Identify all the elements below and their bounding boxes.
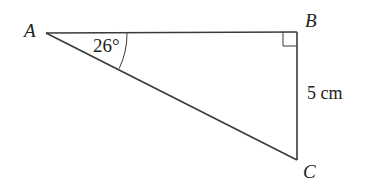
right-angle-marker	[283, 32, 297, 46]
angle-arc-a	[119, 33, 127, 69]
side-ac	[46, 33, 297, 160]
angle-label: 26°	[93, 35, 120, 56]
triangle-diagram: A B C 26° 5 cm	[0, 0, 373, 185]
triangle-svg: A B C 26° 5 cm	[0, 0, 373, 185]
vertex-label-c: C	[303, 161, 316, 182]
vertex-label-a: A	[22, 20, 36, 41]
side-length-label: 5 cm	[307, 83, 343, 103]
side-ab	[46, 32, 297, 33]
vertex-label-b: B	[305, 10, 317, 31]
